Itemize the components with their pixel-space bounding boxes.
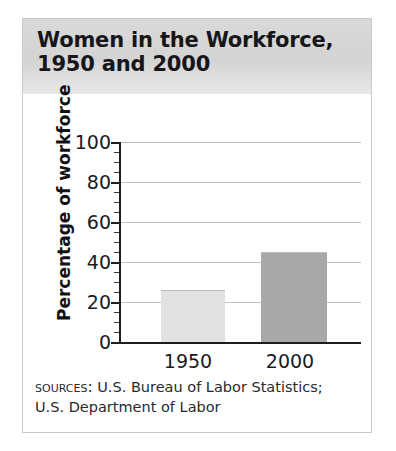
- page-title: Women in the Workforce, 1950 and 2000: [37, 28, 357, 77]
- chart-card: Women in the Workforce, 1950 and 2000 Pe…: [22, 18, 372, 433]
- sources-line-2: U.S. Department of Labor: [35, 398, 359, 417]
- x-axis-line: [119, 342, 361, 344]
- bar-1950: [161, 290, 225, 342]
- bar-2000: [261, 252, 327, 342]
- x-tick-label-1950: 1950: [143, 350, 233, 372]
- title-band: Women in the Workforce, 1950 and 2000: [23, 19, 371, 94]
- sources-line-1: U.S. Bureau of Labor Statistics;: [97, 379, 322, 395]
- gridline-60: [121, 222, 361, 223]
- plot-region: Percentage of workforce 100 80 60 40 20 …: [23, 94, 372, 374]
- y-tick-label-40: 40: [65, 253, 111, 272]
- source-note: Sources: U.S. Bureau of Labor Statistics…: [23, 377, 371, 417]
- y-axis-tick-labels: 100 80 60 40 20 0: [57, 94, 111, 374]
- y-tick-label-0: 0: [65, 333, 111, 352]
- x-tick-label-2000: 2000: [245, 350, 335, 372]
- y-tick-label-80: 80: [65, 173, 111, 192]
- y-tick-label-100: 100: [65, 133, 111, 152]
- gridline-100: [121, 142, 361, 143]
- y-tick-label-20: 20: [65, 293, 111, 312]
- sources-label: Sources:: [35, 378, 93, 396]
- y-axis-line: [119, 142, 121, 344]
- y-tick-label-60: 60: [65, 213, 111, 232]
- gridline-80: [121, 182, 361, 183]
